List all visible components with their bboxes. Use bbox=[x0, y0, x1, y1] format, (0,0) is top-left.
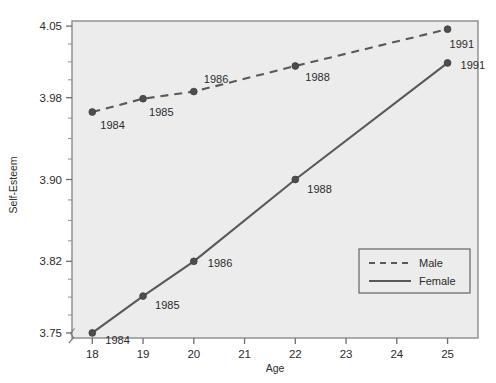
y-axis-title: Self-Esteem bbox=[7, 156, 19, 213]
x-tick-label: 19 bbox=[137, 348, 150, 360]
data-point-marker bbox=[140, 95, 147, 102]
data-point-marker bbox=[89, 329, 96, 336]
data-point-marker bbox=[444, 26, 451, 33]
x-tick-label: 22 bbox=[289, 348, 302, 360]
legend-label-female: Female bbox=[419, 275, 456, 287]
y-tick-label: 4.05 bbox=[40, 20, 62, 32]
legend-label-male: Male bbox=[419, 257, 443, 269]
data-point-marker bbox=[140, 293, 147, 300]
x-tick-label: 20 bbox=[187, 348, 200, 360]
x-tick-label: 18 bbox=[86, 348, 99, 360]
chart-figure: 4.053.983.903.823.75 1819202122232425 19… bbox=[0, 0, 496, 383]
data-point-label: 1986 bbox=[204, 73, 228, 85]
data-point-marker bbox=[292, 176, 299, 183]
data-point-label: 1988 bbox=[305, 71, 329, 83]
x-tick-label: 23 bbox=[340, 348, 353, 360]
data-point-marker bbox=[444, 60, 451, 67]
data-point-marker bbox=[292, 63, 299, 70]
y-tick-label: 3.90 bbox=[40, 174, 62, 186]
data-point-label: 1985 bbox=[149, 106, 173, 118]
data-point-label: 1984 bbox=[100, 119, 124, 131]
data-point-label: 1988 bbox=[307, 183, 331, 195]
y-tick-label: 3.98 bbox=[40, 92, 62, 104]
y-tick-label: 3.75 bbox=[40, 327, 62, 339]
data-point-label: 1991 bbox=[461, 59, 485, 71]
data-point-marker bbox=[89, 109, 96, 116]
data-point-label: 1985 bbox=[155, 299, 179, 311]
self-esteem-line-chart: 4.053.983.903.823.75 1819202122232425 19… bbox=[0, 0, 496, 383]
x-tick-label: 25 bbox=[441, 348, 454, 360]
data-point-label: 1991 bbox=[450, 38, 474, 50]
x-tick-label: 21 bbox=[238, 348, 251, 360]
y-tick-label: 3.82 bbox=[40, 255, 62, 267]
x-axis-title: Age bbox=[266, 362, 285, 374]
x-tick-label: 24 bbox=[390, 348, 403, 360]
data-point-marker bbox=[190, 258, 197, 265]
legend: Male Female bbox=[359, 249, 470, 293]
data-point-marker bbox=[190, 88, 197, 95]
data-point-label: 1984 bbox=[105, 334, 129, 346]
data-point-label: 1986 bbox=[208, 257, 232, 269]
